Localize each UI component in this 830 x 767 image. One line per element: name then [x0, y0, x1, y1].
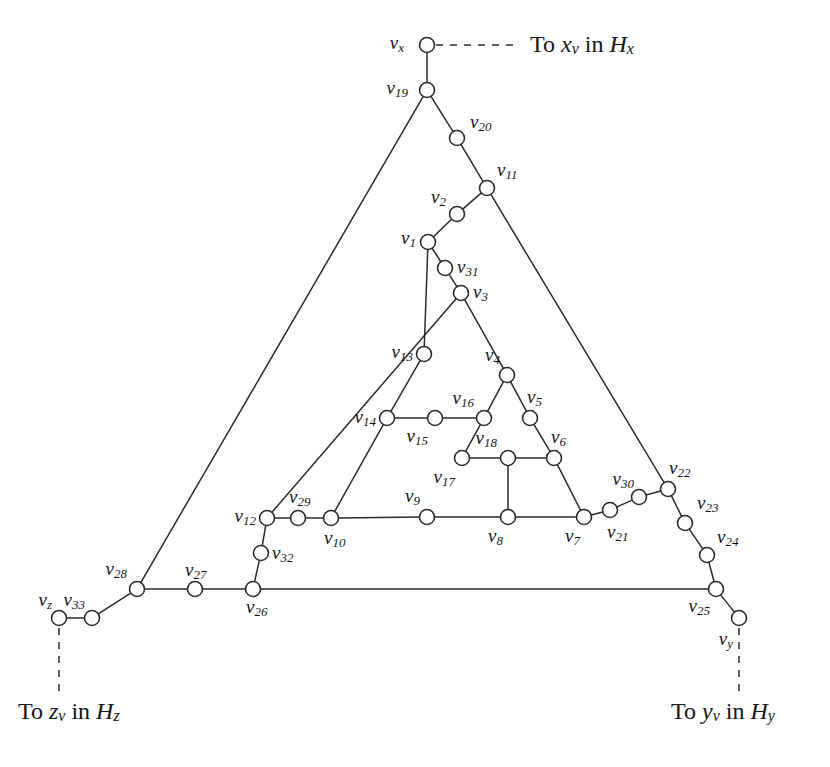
node-v9[interactable]: [420, 510, 435, 525]
node-label-v24: v24: [717, 526, 739, 548]
edge-v6-v7: [557, 465, 580, 511]
node-label-v10: v10: [324, 527, 346, 549]
node-v14[interactable]: [380, 411, 395, 426]
node-v18[interactable]: [501, 451, 516, 466]
node-label-v9: v9: [405, 485, 420, 507]
node-v11[interactable]: [480, 181, 495, 196]
edge-v25-vy: [721, 595, 735, 612]
edge-v11-v22: [491, 194, 664, 482]
node-v1[interactable]: [421, 235, 436, 250]
node-label-v23: v23: [697, 492, 719, 514]
node-v26[interactable]: [246, 582, 261, 597]
node-v2[interactable]: [450, 207, 465, 222]
node-v10[interactable]: [324, 511, 339, 526]
node-v27[interactable]: [188, 582, 203, 597]
node-v22[interactable]: [661, 482, 676, 497]
node-label-v11: v11: [497, 159, 517, 181]
node-label-v6: v6: [551, 426, 566, 448]
node-v33[interactable]: [85, 611, 100, 626]
node-v20[interactable]: [450, 131, 465, 146]
edge-v7-v21: [591, 512, 603, 515]
node-label-v14: v14: [355, 406, 377, 428]
edge-v32-v26: [255, 560, 260, 581]
node-v12[interactable]: [260, 511, 275, 526]
node-labels-layer: vxv19v20v11v2v1v31v3v13v4v5v16v14v15v6v1…: [39, 32, 739, 650]
edge-v23-v24: [689, 529, 703, 549]
edge-v30-v22: [646, 491, 661, 495]
node-label-vz: vz: [39, 589, 53, 611]
node-label-v5: v5: [527, 386, 542, 408]
node-vx[interactable]: [420, 38, 435, 53]
node-label-v22: v22: [669, 457, 691, 479]
edge-v12-v32: [262, 525, 265, 545]
edge-v22-v23: [671, 496, 681, 517]
node-label-v31: v31: [457, 256, 478, 278]
node-v4[interactable]: [500, 368, 515, 383]
caption-x: To xv in Hx: [530, 31, 634, 58]
node-label-v28: v28: [106, 558, 128, 580]
edge-v24-v25: [709, 562, 714, 581]
node-v28[interactable]: [130, 582, 145, 597]
node-label-v13: v13: [392, 341, 414, 363]
node-v3[interactable]: [454, 286, 469, 301]
node-v6[interactable]: [547, 451, 562, 466]
node-v21[interactable]: [603, 503, 618, 518]
node-v30[interactable]: [632, 490, 647, 505]
node-label-v20: v20: [470, 111, 492, 133]
edge-v1-v31: [432, 248, 441, 261]
edge-v5-v6: [534, 424, 550, 451]
node-label-v12: v12: [235, 505, 257, 527]
node-label-v29: v29: [289, 486, 311, 508]
node-label-v16: v16: [453, 387, 475, 409]
node-v31[interactable]: [438, 261, 453, 276]
edge-v11-v2: [463, 193, 482, 209]
node-v24[interactable]: [700, 548, 715, 563]
node-vz[interactable]: [52, 611, 67, 626]
node-v15[interactable]: [428, 411, 443, 426]
node-label-vy: vy: [719, 628, 733, 650]
edge-v16-v4: [488, 382, 504, 412]
node-v17[interactable]: [455, 451, 470, 466]
node-label-v32: v32: [272, 542, 294, 564]
node-v25[interactable]: [709, 582, 724, 597]
node-label-v8: v8: [488, 525, 503, 547]
edge-v28-v33: [98, 593, 130, 614]
node-v32[interactable]: [254, 546, 269, 561]
node-vy[interactable]: [732, 611, 747, 626]
node-v13[interactable]: [417, 347, 432, 362]
nodes-layer: [52, 38, 747, 626]
node-label-v33: v33: [64, 589, 86, 611]
edge-v21-v30: [617, 500, 632, 507]
edge-v31-v3: [449, 274, 457, 286]
node-v7[interactable]: [577, 510, 592, 525]
edge-v20-v11: [461, 144, 483, 181]
node-label-v25: v25: [689, 595, 711, 617]
node-v5[interactable]: [523, 411, 538, 426]
edge-v19-v20: [431, 96, 453, 131]
node-v29[interactable]: [291, 511, 306, 526]
node-label-v21: v21: [607, 521, 628, 543]
node-label-v4: v4: [485, 344, 500, 366]
captions-layer: To xv in HxTo zv in HzTo yv in Hy: [18, 31, 776, 726]
node-label-v18: v18: [476, 427, 498, 449]
node-label-v27: v27: [185, 559, 207, 581]
node-v16[interactable]: [477, 411, 492, 426]
node-v8[interactable]: [501, 510, 516, 525]
edge-v19-v28: [141, 96, 423, 582]
node-label-v17: v17: [434, 466, 456, 488]
node-label-v2: v2: [431, 186, 446, 208]
node-label-v1: v1: [401, 227, 416, 249]
gadget-graph-figure: vxv19v20v11v2v1v31v3v13v4v5v16v14v15v6v1…: [0, 0, 830, 767]
edge-v10-v9: [338, 517, 419, 518]
edges-layer: [59, 45, 739, 694]
node-label-v7: v7: [565, 525, 580, 547]
edge-v4-v5: [511, 382, 527, 412]
node-label-v26: v26: [246, 596, 268, 618]
node-label-v19: v19: [387, 77, 409, 99]
node-v19[interactable]: [420, 83, 435, 98]
edge-v12-v3: [272, 299, 456, 513]
node-v23[interactable]: [678, 516, 693, 531]
edge-v13-v14: [391, 360, 420, 411]
caption-z: To zv in Hz: [18, 698, 120, 725]
node-label-vx: vx: [390, 32, 404, 54]
